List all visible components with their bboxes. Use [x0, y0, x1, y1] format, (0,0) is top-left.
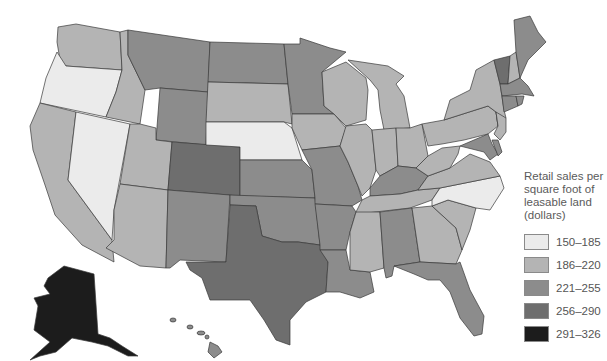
legend-title-line: Retail sales per	[524, 170, 607, 183]
legend-swatch	[524, 303, 549, 319]
legend-label: 221–255	[556, 282, 601, 294]
state-SD	[206, 82, 292, 124]
state-IA	[292, 114, 346, 150]
state-WY	[156, 88, 208, 145]
legend-title-line: (dollars)	[524, 209, 607, 222]
legend-swatch	[524, 257, 549, 273]
state-HI	[170, 318, 222, 358]
legend-swatch	[524, 234, 549, 250]
state-AK	[30, 266, 138, 360]
legend-label: 150–185	[556, 236, 601, 248]
state-ND	[208, 42, 288, 84]
legend-label: 256–290	[556, 305, 601, 317]
legend-item: 221–255	[524, 276, 607, 299]
legend-item: 186–220	[524, 253, 607, 276]
legend-title: Retail sales per square foot of leasable…	[524, 170, 607, 222]
legend-swatch	[524, 280, 549, 296]
legend-item: 256–290	[524, 299, 607, 322]
state-ME	[514, 16, 546, 78]
map-legend: Retail sales per square foot of leasable…	[524, 170, 607, 345]
state-CT	[502, 96, 518, 112]
state-KS	[240, 160, 315, 198]
state-NM	[166, 190, 230, 268]
legend-label: 291–326	[556, 328, 601, 340]
legend-item: 291–326	[524, 322, 607, 345]
legend-label: 186–220	[556, 259, 601, 271]
state-WA	[57, 24, 122, 70]
us-choropleth-map	[0, 0, 607, 361]
legend-title-line: square foot of	[524, 183, 607, 196]
legend-swatch	[524, 326, 549, 342]
state-MS	[350, 212, 384, 272]
state-FL	[394, 262, 484, 336]
state-CO	[168, 142, 240, 196]
legend-title-line: leasable land	[524, 196, 607, 209]
legend-item: 150–185	[524, 230, 607, 253]
